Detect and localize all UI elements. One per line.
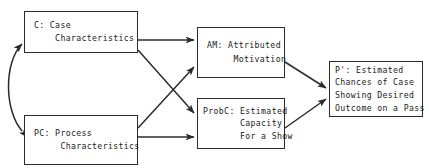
edge-am-to-pprime <box>285 62 326 88</box>
edge-c-pc-bidirectional <box>9 44 23 131</box>
node-estimated-chances[interactable]: P': Estimated Chances of Case Showing De… <box>329 61 423 117</box>
node-probc-line-2: Capacity <box>203 117 284 130</box>
edge-c-to-probc <box>138 50 194 113</box>
node-pprime-line-2: Chances of Case <box>335 76 422 89</box>
edge-probc-to-pprime <box>285 99 326 128</box>
node-case-characteristics[interactable]: C: Case Characteristics <box>24 11 138 53</box>
node-pc-line-1: PC: Process <box>34 127 137 141</box>
node-estimated-capacity[interactable]: ProbC: Estimated Capacity For a Show <box>197 98 285 149</box>
node-probc-line-3: For a Show <box>203 130 284 143</box>
node-c-line-2: Characteristics <box>34 32 137 46</box>
flow-diagram: C: Case Characteristics PC: Process Char… <box>0 0 429 168</box>
node-am-line-1: AM: Attributed <box>207 39 284 53</box>
node-attributed-motivation[interactable]: AM: Attributed Motivation <box>197 27 285 78</box>
node-am-line-2: Motivation <box>207 53 284 67</box>
node-pprime-line-4: Outcome on a Pass <box>335 102 422 115</box>
node-pc-line-2: Characteristics <box>34 140 137 154</box>
node-process-characteristics[interactable]: PC: Process Characteristics <box>24 115 138 165</box>
node-pprime-line-1: P': Estimated <box>335 64 422 77</box>
node-c-line-1: C: Case <box>34 19 137 33</box>
node-pprime-line-3: Showing Desired <box>335 89 422 102</box>
edge-pc-to-am <box>138 67 194 128</box>
node-probc-line-1: ProbC: Estimated <box>203 105 284 118</box>
